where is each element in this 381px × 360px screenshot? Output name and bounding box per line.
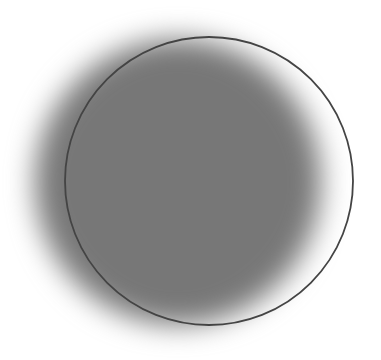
outline-circle-canvas [0, 0, 381, 360]
outline-circle [65, 37, 353, 325]
